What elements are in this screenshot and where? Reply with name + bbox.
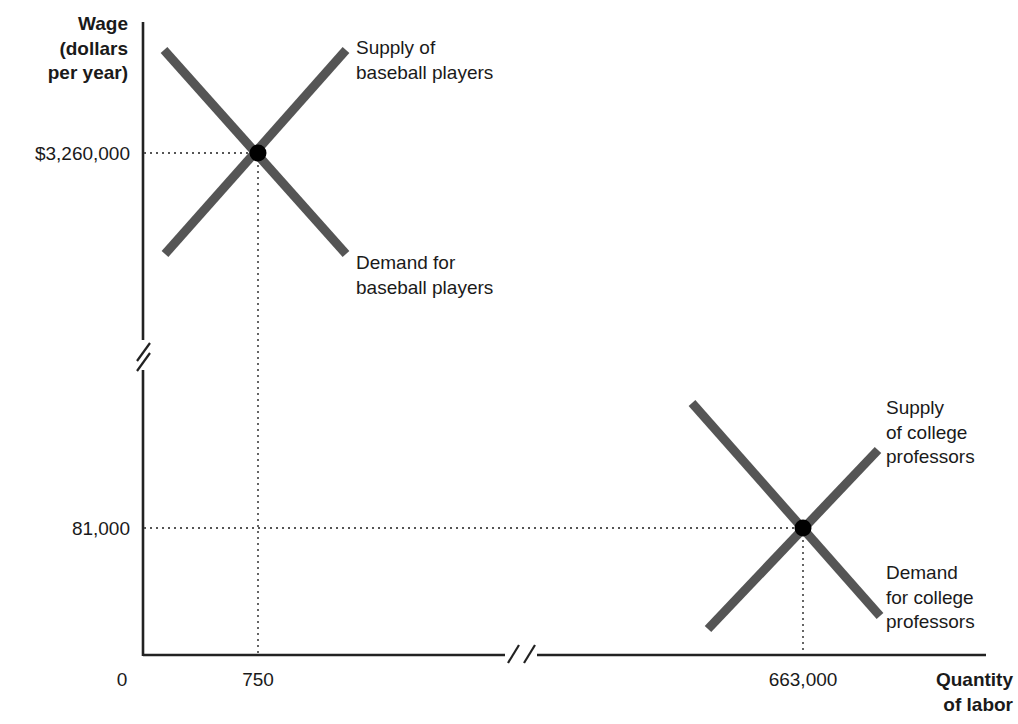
y-axis-title-line3: per year) <box>48 62 128 83</box>
professors-market-group <box>692 403 880 629</box>
curve-label-demand-professors: Demandfor collegeprofessors <box>886 561 1018 635</box>
x-axis-title-line1: Quantity <box>936 669 1013 690</box>
chart-figure: Wage(dollarsper year) Quantityof labor $… <box>0 0 1018 724</box>
y-axis-break-icon <box>136 340 151 371</box>
demand-professors-line2: for college <box>886 587 974 608</box>
y-tick-label-low: 81,000 <box>0 517 130 542</box>
y-axis-title-line2: (dollars <box>59 38 128 59</box>
x-axis-title-line2: of labor <box>943 694 1013 715</box>
supply-professors-line1: Supply <box>886 397 944 418</box>
chart-plot-area <box>0 0 1018 724</box>
demand-professors-line3: professors <box>886 611 975 632</box>
y-axis-title-line1: Wage <box>78 13 128 34</box>
x-tick-label-professors-quantity: 663,000 <box>755 668 851 693</box>
equilibrium-point-professors <box>795 520 812 537</box>
guide-lines-group <box>144 153 803 654</box>
baseball-market-group <box>164 50 346 254</box>
curve-label-supply-professors: Supplyof collegeprofessors <box>886 396 1018 470</box>
demand-baseball-line2: baseball players <box>356 277 493 298</box>
demand-curve-professors <box>692 403 880 616</box>
supply-baseball-line1: Supply of <box>356 37 435 58</box>
x-tick-label-zero: 0 <box>106 668 138 693</box>
demand-professors-line1: Demand <box>886 562 958 583</box>
curve-label-supply-baseball: Supply ofbaseball players <box>356 36 566 85</box>
supply-curve-professors <box>708 450 878 629</box>
supply-baseball-line2: baseball players <box>356 62 493 83</box>
demand-baseball-line1: Demand for <box>356 252 455 273</box>
y-tick-label-high: $3,260,000 <box>0 142 130 167</box>
x-tick-label-baseball-quantity: 750 <box>226 668 290 693</box>
equilibrium-point-baseball <box>250 145 267 162</box>
y-axis-title: Wage(dollarsper year) <box>0 12 128 86</box>
supply-professors-line2: of college <box>886 422 967 443</box>
supply-professors-line3: professors <box>886 446 975 467</box>
curve-label-demand-baseball: Demand forbaseball players <box>356 251 566 300</box>
x-axis-break-icon <box>505 645 537 663</box>
x-axis-title: Quantityof labor <box>880 668 1013 717</box>
axis-group <box>143 22 986 656</box>
